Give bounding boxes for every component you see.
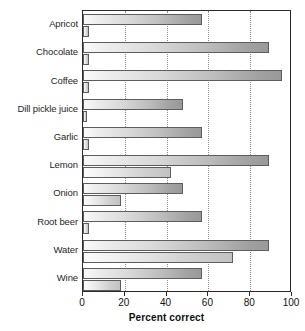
x-axis-tick-label: 20 bbox=[104, 297, 144, 309]
bar bbox=[83, 240, 269, 251]
x-axis-tick-label: 0 bbox=[62, 297, 102, 309]
y-axis-label: Coffee bbox=[0, 76, 78, 86]
bar-group bbox=[83, 11, 290, 39]
x-axis-tick bbox=[207, 292, 208, 296]
bar bbox=[83, 139, 89, 150]
bar bbox=[83, 99, 183, 110]
y-axis-label: Onion bbox=[0, 188, 78, 198]
y-axis-label: Lemon bbox=[0, 160, 78, 170]
bar bbox=[83, 252, 233, 263]
bar-chart: ApricotChocolateCoffeeDill pickle juiceG… bbox=[0, 0, 305, 331]
bar bbox=[83, 280, 121, 291]
x-axis-tick bbox=[124, 292, 125, 296]
bars-layer bbox=[83, 11, 290, 291]
bar-group bbox=[83, 96, 290, 124]
bar-group bbox=[83, 265, 290, 292]
bar-group bbox=[83, 67, 290, 95]
y-axis-label: Water bbox=[0, 245, 78, 255]
x-axis-title: Percent correct bbox=[0, 312, 305, 323]
bar bbox=[83, 70, 282, 81]
bar bbox=[83, 268, 202, 279]
bar-group bbox=[83, 208, 290, 236]
bar bbox=[83, 155, 269, 166]
bar bbox=[83, 211, 202, 222]
x-axis-tick-label: 40 bbox=[146, 297, 186, 309]
x-axis-tick-label: 60 bbox=[187, 297, 227, 309]
x-axis-tick bbox=[249, 292, 250, 296]
y-axis-label: Chocolate bbox=[0, 47, 78, 57]
bar-group bbox=[83, 180, 290, 208]
bar bbox=[83, 42, 269, 53]
bar bbox=[83, 14, 202, 25]
y-axis-label: Root beer bbox=[0, 217, 78, 227]
x-axis-tick-label: 100 bbox=[271, 297, 305, 309]
bar bbox=[83, 82, 89, 93]
bar bbox=[83, 26, 89, 37]
y-axis-label: Wine bbox=[0, 273, 78, 283]
x-axis-tick bbox=[166, 292, 167, 296]
plot-area bbox=[82, 10, 291, 292]
bar bbox=[83, 111, 87, 122]
bar bbox=[83, 167, 171, 178]
bar bbox=[83, 223, 89, 234]
x-axis-tick bbox=[291, 292, 292, 296]
x-axis-tick bbox=[82, 292, 83, 296]
bar-group bbox=[83, 39, 290, 67]
bar-group bbox=[83, 152, 290, 180]
bar-group bbox=[83, 124, 290, 152]
x-axis-tick-label: 80 bbox=[229, 297, 269, 309]
bar bbox=[83, 195, 121, 206]
bar bbox=[83, 54, 89, 65]
bar bbox=[83, 127, 202, 138]
bar-group bbox=[83, 237, 290, 265]
y-axis-label: Dill pickle juice bbox=[0, 104, 78, 114]
bar bbox=[83, 183, 183, 194]
y-axis-label: Apricot bbox=[0, 19, 78, 29]
y-axis-label: Garlic bbox=[0, 132, 78, 142]
